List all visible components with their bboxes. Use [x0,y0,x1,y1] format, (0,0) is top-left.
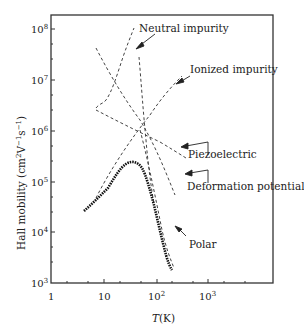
svg-text:107: 107 [31,74,48,86]
label-neutral-impurity: Neutral impurity [139,22,229,34]
label-piezoelectric: Piezoelectric [188,148,257,160]
svg-text:1: 1 [48,291,54,302]
neutral-impurity-curve [96,28,134,108]
y-axis-label: Hall mobility (cm2V−1s−1) [15,116,27,250]
svg-text:104: 104 [31,226,49,238]
svg-text:108: 108 [31,23,48,35]
svg-text:103: 103 [31,277,48,289]
svg-text:102: 102 [148,290,165,302]
hall-mobility-data [84,162,172,270]
svg-text:106: 106 [31,125,49,137]
x-tick-labels: 1 10 102 103 [48,290,216,302]
polar-curve [140,130,174,268]
label-deformation-potential: Deformation potential [187,180,304,192]
deformation-potential-curve [96,48,175,195]
x-axis-label: T(K) [152,312,175,324]
label-ionized-impurity: Ionized impurity [190,63,278,75]
hall-mobility-chart: 108 107 106 105 104 103 1 10 102 103 T(K… [0,0,304,332]
y-tick-labels: 108 107 106 105 104 103 [31,23,49,289]
label-polar: Polar [189,238,218,250]
svg-text:103: 103 [199,290,216,302]
svg-text:105: 105 [31,176,48,188]
piezoelectric-curve [96,110,186,158]
svg-text:10: 10 [98,291,111,302]
